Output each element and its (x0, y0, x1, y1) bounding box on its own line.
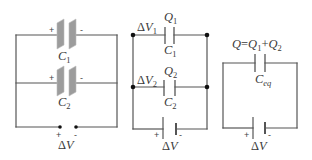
capacitor-plate-negative (69, 19, 76, 49)
battery-minus-sign: - (268, 130, 271, 140)
left-circuit-wires (16, 35, 117, 127)
total-charge-equation: Q=Q1+Q2 (232, 37, 282, 53)
left-circuit: + - C1 + - C2 + - ΔV (16, 19, 117, 152)
c1-label: C1 (58, 49, 71, 65)
junction-node (131, 85, 136, 90)
battery-minus-sign: - (179, 130, 182, 140)
terminal-negative-dot (74, 125, 78, 129)
delta-v1-label: ΔV1 (137, 20, 157, 36)
c2-minus-sign: - (80, 73, 83, 83)
source-minus-sign: - (74, 130, 77, 140)
right-circuit: Q=Q1+Q2 Ceq + - ΔV (223, 37, 297, 153)
q2-label: Q2 (164, 64, 177, 80)
source-voltage-label: ΔV (58, 138, 75, 152)
capacitor-plate-positive (57, 66, 64, 96)
terminal-positive-dot (58, 125, 62, 129)
capacitor-plate-negative (69, 66, 76, 96)
c1-schematic-label: C1 (164, 43, 177, 59)
c1-plus-sign: + (49, 25, 54, 35)
c1-minus-sign: - (80, 25, 83, 35)
battery-voltage-label: ΔV (162, 139, 179, 153)
capacitor-c2-plates (57, 66, 76, 96)
capacitor-c1-plates (57, 19, 76, 49)
junction-node (205, 33, 210, 38)
c2-plus-sign: + (49, 73, 54, 83)
middle-circuit: ΔV1 Q1 C1 ΔV2 Q2 C2 + - ΔV (131, 10, 210, 153)
battery-voltage-label: ΔV (251, 139, 268, 153)
capacitor-plate-positive (57, 19, 64, 49)
battery-plus-sign: + (244, 130, 249, 140)
q1-label: Q1 (164, 10, 177, 26)
battery-plus-sign: + (154, 130, 159, 140)
ceq-label: Ceq (255, 72, 272, 88)
parallel-capacitors-diagram: + - C1 + - C2 + - ΔV (0, 0, 312, 160)
junction-node (131, 33, 136, 38)
c2-schematic-label: C2 (164, 95, 177, 111)
c2-label: C2 (58, 95, 71, 111)
diagram-svg: + - C1 + - C2 + - ΔV (0, 0, 312, 160)
delta-v2-label: ΔV2 (137, 73, 157, 89)
junction-node (205, 85, 210, 90)
